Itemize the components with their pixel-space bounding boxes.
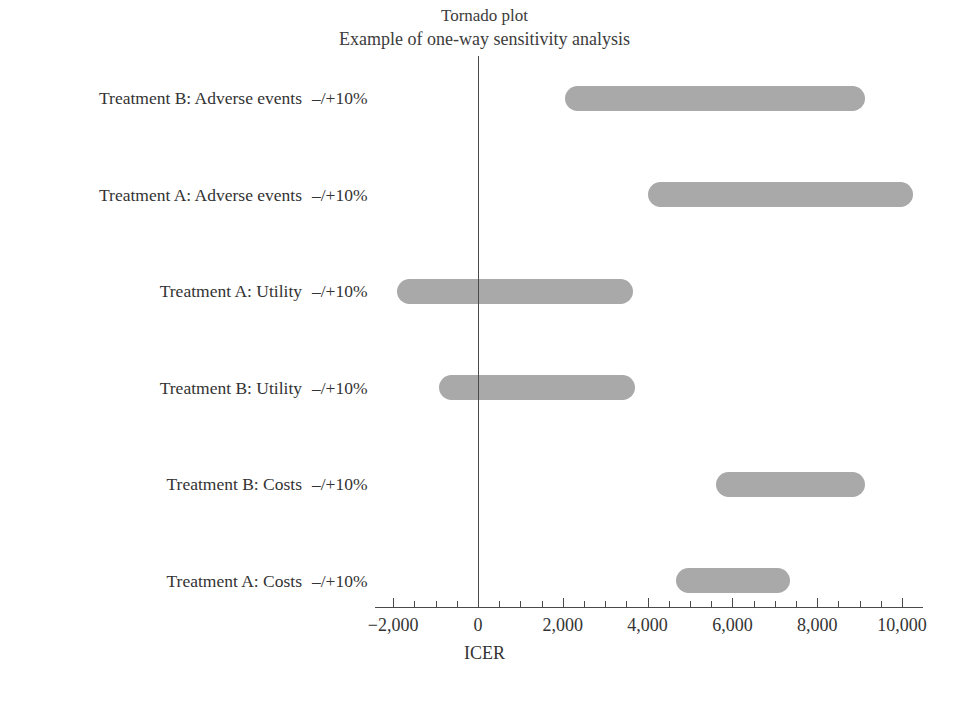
x-axis-tick-label: 8,000 [797,614,838,636]
row-range-label: –/+10% [312,175,368,215]
x-axis-tick-label: 6,000 [712,614,753,636]
tornado-row: Treatment A: Adverse events–/+10% [0,175,969,215]
row-category-label: Treatment A: Adverse events [99,175,302,215]
row-range-label: –/+10% [312,78,368,118]
x-axis-minor-tick [754,601,755,607]
x-axis-minor-tick [690,601,691,607]
row-range-label: –/+10% [312,464,368,504]
tornado-row: Treatment A: Costs–/+10% [0,561,969,601]
x-axis-minor-tick [605,601,606,607]
row-category-label: Treatment A: Utility [160,271,302,311]
x-axis-minor-tick [669,601,670,607]
x-axis-minor-tick [584,601,585,607]
tornado-row: Treatment B: Adverse events–/+10% [0,78,969,118]
x-axis-minor-tick [626,601,627,607]
row-range-label: –/+10% [312,271,368,311]
x-axis-minor-tick [414,601,415,607]
chart-subtitle: Example of one-way sensitivity analysis [0,27,969,51]
x-axis-minor-tick [499,601,500,607]
x-axis-minor-tick [520,601,521,607]
zero-reference-line [478,56,479,607]
x-axis-minor-tick [860,601,861,607]
x-axis-tick-label: −2,000 [368,614,419,636]
x-axis-minor-tick [775,601,776,607]
chart-title: Tornado plot [0,4,969,27]
row-category-label: Treatment B: Utility [160,368,302,408]
x-axis-minor-tick [711,601,712,607]
row-range-label: –/+10% [312,561,368,601]
row-category-label: Treatment A: Costs [167,561,302,601]
row-category-label: Treatment B: Adverse events [99,78,302,118]
tornado-row: Treatment B: Costs–/+10% [0,464,969,504]
tornado-plot-figure: Tornado plot Example of one-way sensitiv… [0,0,969,701]
row-range-label: –/+10% [312,368,368,408]
title-block: Tornado plot Example of one-way sensitiv… [0,4,969,51]
x-axis-title: ICER [0,643,969,664]
x-axis-line [375,607,923,608]
x-axis-minor-tick [542,601,543,607]
x-axis-minor-tick [881,601,882,607]
x-axis-minor-tick [436,601,437,607]
row-category-label: Treatment B: Costs [167,464,302,504]
x-axis-tick-label: 10,000 [877,614,927,636]
tornado-row: Treatment A: Utility–/+10% [0,271,969,311]
x-axis-tick-label: 4,000 [627,614,668,636]
x-axis-tick-label: 2,000 [543,614,584,636]
x-axis-minor-tick [838,601,839,607]
x-axis-tick-label: 0 [474,614,483,636]
x-axis-minor-tick [457,601,458,607]
tornado-row: Treatment B: Utility–/+10% [0,368,969,408]
x-axis-minor-tick [796,601,797,607]
